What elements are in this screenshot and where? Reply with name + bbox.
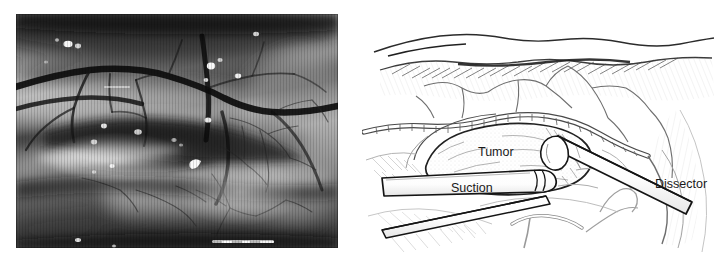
surgical-line-drawing: Tumor Suction Dissector: [362, 0, 724, 265]
label-dissector: Dissector: [655, 177, 707, 191]
scanline-overlay: [16, 14, 338, 248]
photograph-canvas: [16, 14, 338, 248]
two-panel-surgical-figure: Tumor Suction Dissector: [0, 0, 724, 265]
diagram-canvas: Tumor Suction Dissector: [362, 0, 724, 265]
intraoperative-photograph: [16, 14, 338, 248]
label-tumor: Tumor: [478, 145, 514, 159]
label-suction: Suction: [451, 181, 493, 195]
